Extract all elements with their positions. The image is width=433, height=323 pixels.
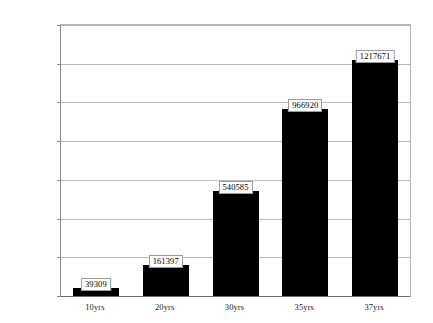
x-axis-category-label: 35yrs [269, 302, 339, 312]
bar-data-label: 1217671 [356, 50, 394, 63]
bar-data-label: 39309 [81, 278, 111, 291]
bar[interactable] [282, 109, 328, 296]
bar-group[interactable]: 1217671 [352, 25, 398, 296]
bar-group[interactable]: 540585 [213, 25, 259, 296]
bar[interactable] [352, 60, 398, 296]
x-axis-category-label: 37yrs [339, 302, 409, 312]
bars-layer: 393091613975405859669201217671 [61, 25, 410, 296]
bar-data-label: 966920 [288, 99, 322, 112]
bar-group[interactable]: 966920 [282, 25, 328, 296]
bar-data-label: 540585 [218, 181, 252, 194]
bar[interactable] [143, 265, 189, 296]
gridline [61, 296, 410, 297]
x-axis-category-label: 10yrs [60, 302, 130, 312]
x-axis-category-label: 20yrs [130, 302, 200, 312]
bar-data-label: 161397 [149, 255, 183, 268]
bar[interactable] [213, 191, 259, 296]
y-axis-tick-mark [57, 296, 61, 297]
x-axis-category-label: 30yrs [200, 302, 270, 312]
bar-chart: 0200000400000600000800000100000012000001… [0, 0, 433, 323]
bar-group[interactable]: 161397 [143, 25, 189, 296]
plot-area: 393091613975405859669201217671 [60, 24, 411, 297]
bar-group[interactable]: 39309 [73, 25, 119, 296]
